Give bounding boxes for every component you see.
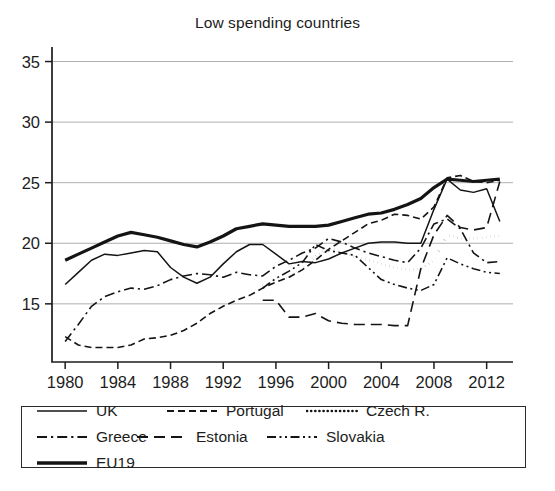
series-line-eu19 (65, 179, 500, 260)
x-tick-label: 1984 (99, 373, 136, 391)
legend-item-czech[interactable]: Czech R. (306, 398, 431, 424)
legend-label-eu19: EU19 (96, 454, 135, 472)
legend-item-greece[interactable]: Greece (36, 424, 136, 450)
legend-label-portugal: Portugal (226, 402, 284, 420)
x-tick-label: 1996 (258, 373, 295, 391)
legend-swatch-uk-icon (36, 404, 88, 418)
y-tick-label: 15 (22, 295, 40, 313)
axes (45, 47, 513, 369)
legend-item-eu19[interactable]: EU19 (36, 450, 161, 476)
x-tick-label: 2004 (363, 373, 400, 391)
y-tick-label: 20 (22, 234, 40, 252)
legend-swatch-greece-icon (36, 430, 88, 444)
y-tick-label: 35 (22, 53, 40, 71)
x-tick-label: 2012 (468, 373, 505, 391)
chart-figure: Low spending countries 1520253035 198019… (0, 0, 555, 491)
legend-swatch-portugal-icon (166, 404, 218, 418)
legend-item-uk[interactable]: UK (36, 398, 166, 424)
legend-item-estonia[interactable]: Estonia (136, 424, 266, 450)
series-lines (65, 175, 500, 347)
legend-swatch-czech-icon (306, 404, 358, 418)
legend-swatch-slovakia-icon (266, 430, 318, 444)
x-tick-label: 1992 (205, 373, 242, 391)
line-chart-plot: 1520253035 19801984198819921996200020042… (0, 0, 555, 400)
series-line-portugal (65, 175, 500, 347)
legend-label-slovakia: Slovakia (326, 428, 385, 446)
legend-label-estonia: Estonia (196, 428, 248, 446)
x-tick-label: 1980 (47, 373, 84, 391)
legend-item-portugal[interactable]: Portugal (166, 398, 306, 424)
legend-swatch-eu19-icon (36, 456, 88, 470)
y-axis-tick-labels: 1520253035 (22, 53, 40, 313)
legend-label-uk: UK (96, 402, 118, 420)
x-tick-label: 2000 (310, 373, 347, 391)
y-tick-label: 25 (22, 174, 40, 192)
legend-label-czech: Czech R. (366, 402, 430, 420)
series-line-slovakia (263, 244, 500, 290)
chart-legend: UKPortugalCzech R.GreeceEstoniaSlovakiaE… (21, 406, 526, 468)
x-axis-tick-labels: 198019841988199219962000200420082012 (47, 373, 505, 391)
y-tick-label: 30 (22, 113, 40, 131)
legend-item-slovakia[interactable]: Slovakia (266, 424, 406, 450)
x-tick-label: 1988 (152, 373, 189, 391)
legend-swatch-estonia-icon (136, 430, 188, 444)
x-tick-label: 2008 (416, 373, 453, 391)
